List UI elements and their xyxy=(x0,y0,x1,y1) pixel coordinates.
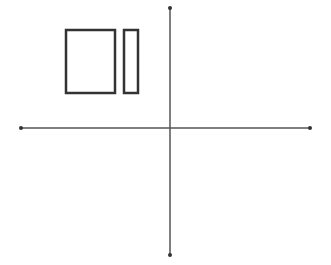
axis-endpoint-top xyxy=(168,6,172,10)
axis-endpoint-bottom xyxy=(168,253,172,257)
diagram-canvas xyxy=(0,0,331,265)
axis-endpoint-left xyxy=(19,126,23,130)
axis-endpoint-right xyxy=(308,126,312,130)
small-rectangle xyxy=(124,30,138,93)
large-rectangle xyxy=(66,30,115,93)
